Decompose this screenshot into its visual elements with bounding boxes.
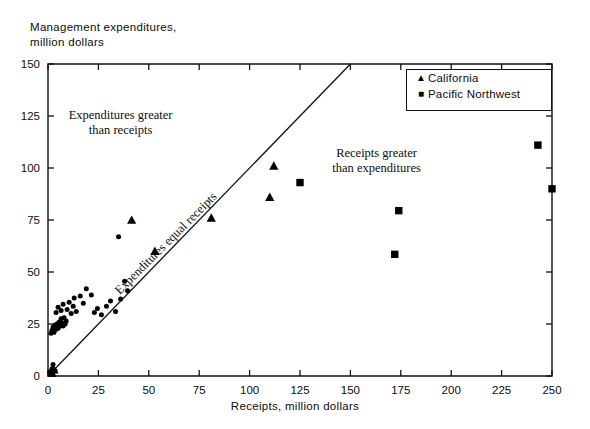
square-marker-icon: ■ bbox=[414, 89, 428, 99]
scatter-plot-figure: Management expenditures, million dollars… bbox=[0, 0, 590, 429]
data-point-circle bbox=[69, 311, 74, 316]
data-point-circle bbox=[53, 368, 58, 373]
expenditures-greater-annotation: Expenditures greater than receipts bbox=[41, 108, 201, 138]
data-point-triangle bbox=[127, 215, 136, 223]
y-tick-label: 100 bbox=[4, 162, 40, 174]
data-point-circle bbox=[74, 309, 79, 314]
x-tick-label: 150 bbox=[341, 384, 360, 396]
data-point-circle bbox=[59, 308, 64, 313]
legend-item-california: ▲ California bbox=[407, 70, 551, 86]
legend: ▲ California ■ Pacific Northwest bbox=[406, 69, 552, 111]
y-tick-label: 25 bbox=[4, 318, 40, 330]
data-point-circle bbox=[84, 286, 89, 291]
data-point-circle bbox=[51, 362, 56, 367]
data-point-triangle bbox=[265, 193, 274, 201]
legend-item-pacific-northwest: ■ Pacific Northwest bbox=[407, 86, 551, 102]
data-point-triangle bbox=[269, 161, 278, 169]
data-point-circle bbox=[78, 293, 83, 298]
y-tick-label: 125 bbox=[4, 110, 40, 122]
x-tick-label: 225 bbox=[492, 384, 511, 396]
data-point-circle bbox=[92, 310, 97, 315]
data-point-circle bbox=[71, 304, 76, 309]
data-point-circle bbox=[108, 299, 113, 304]
y-tick-label: 50 bbox=[4, 266, 40, 278]
data-point-circle bbox=[67, 300, 72, 305]
x-tick-label: 175 bbox=[391, 384, 410, 396]
data-point-square bbox=[296, 179, 303, 186]
data-point-square bbox=[534, 141, 541, 148]
triangle-marker-icon: ▲ bbox=[414, 73, 428, 83]
x-tick-label: 0 bbox=[45, 384, 51, 396]
x-tick-label: 100 bbox=[240, 384, 259, 396]
data-point-circle bbox=[113, 309, 118, 314]
x-tick-label: 75 bbox=[193, 384, 206, 396]
data-point-circle bbox=[64, 318, 69, 323]
data-point-circle bbox=[54, 310, 59, 315]
y-tick-label: 75 bbox=[4, 214, 40, 226]
legend-label-pacific-northwest: Pacific Northwest bbox=[428, 88, 520, 100]
data-point-circle bbox=[95, 306, 100, 311]
y-tick-label: 0 bbox=[4, 370, 40, 382]
data-point-circle bbox=[89, 292, 94, 297]
data-point-circle bbox=[99, 312, 104, 317]
y-tick-label: 150 bbox=[4, 58, 40, 70]
data-point-triangle bbox=[207, 213, 216, 221]
x-tick-label: 25 bbox=[92, 384, 105, 396]
legend-label-california: California bbox=[428, 72, 479, 84]
data-point-circle bbox=[72, 296, 77, 301]
x-tick-label: 125 bbox=[290, 384, 309, 396]
data-point-circle bbox=[116, 234, 121, 239]
series-california bbox=[47, 161, 278, 376]
data-point-square bbox=[391, 251, 398, 258]
x-tick-label: 250 bbox=[542, 384, 561, 396]
data-point-square bbox=[395, 207, 402, 214]
data-point-circle bbox=[81, 301, 86, 306]
data-point-circle bbox=[104, 304, 109, 309]
data-point-circle bbox=[61, 302, 66, 307]
data-point-square bbox=[548, 185, 555, 192]
x-tick-label: 200 bbox=[442, 384, 461, 396]
data-point-circle bbox=[65, 307, 70, 312]
receipts-greater-annotation: Receipts greater than expenditures bbox=[297, 146, 457, 176]
x-tick-label: 50 bbox=[142, 384, 155, 396]
plot-canvas bbox=[0, 0, 590, 429]
